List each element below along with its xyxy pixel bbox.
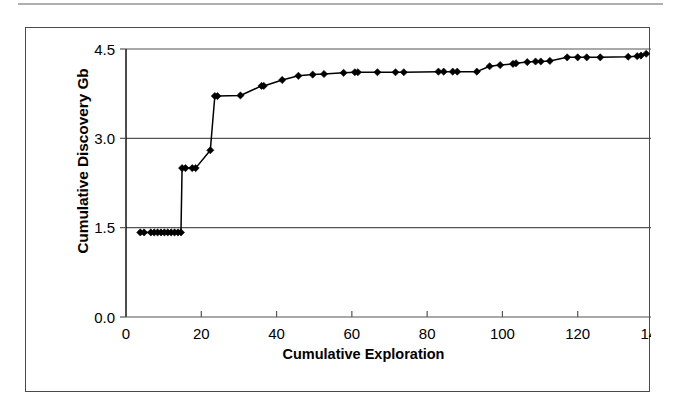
y-tick-label: 0.0 <box>94 309 115 326</box>
x-tick-label: 40 <box>268 325 285 342</box>
data-point-marker <box>295 72 302 79</box>
axis-group <box>126 49 651 317</box>
data-point-marker <box>237 92 244 99</box>
x-tick-label: 100 <box>490 325 515 342</box>
data-series-line <box>140 54 646 233</box>
data-point-marker <box>486 63 493 70</box>
y-tick-label: 4.5 <box>94 41 115 58</box>
top-separator-rule <box>18 3 663 5</box>
x-tick-label: 20 <box>193 325 210 342</box>
data-point-marker <box>309 71 316 78</box>
data-point-marker <box>454 68 461 75</box>
line-chart-plot: 0.01.53.04.5 020406080100120140 <box>66 31 651 351</box>
y-tick-label: 3.0 <box>94 130 115 147</box>
y-tick-label-group: 0.01.53.04.5 <box>94 41 115 326</box>
data-point-marker <box>374 69 381 76</box>
data-point-marker <box>546 57 553 64</box>
x-tick-label: 80 <box>419 325 436 342</box>
series-polyline <box>140 54 646 233</box>
data-point-marker <box>564 54 571 61</box>
x-tick-label: 120 <box>565 325 590 342</box>
data-point-marker <box>537 58 544 65</box>
y-tick-label: 1.5 <box>94 219 115 236</box>
data-point-marker <box>524 59 531 66</box>
data-point-marker <box>320 70 327 77</box>
figure-page: Cumulative Discovery Gb Cumulative Explo… <box>0 0 675 412</box>
x-tick-label: 0 <box>122 325 130 342</box>
data-point-marker <box>625 53 632 60</box>
chart-figure-frame: Cumulative Discovery Gb Cumulative Explo… <box>25 27 650 392</box>
data-point-marker <box>400 69 407 76</box>
data-point-marker <box>279 76 286 83</box>
data-point-marker <box>340 69 347 76</box>
data-point-marker <box>597 54 604 61</box>
x-tick-label: 60 <box>344 325 361 342</box>
data-point-marker <box>583 54 590 61</box>
tick-mark-group <box>120 49 651 317</box>
x-tick-label-group: 020406080100120140 <box>122 325 651 342</box>
data-point-marker <box>574 54 581 61</box>
data-series-markers <box>137 50 650 236</box>
data-point-marker <box>473 68 480 75</box>
x-tick-label: 140 <box>640 325 651 342</box>
data-point-marker <box>440 68 447 75</box>
data-point-marker <box>392 69 399 76</box>
data-point-marker <box>497 61 504 68</box>
gridline-group <box>126 49 651 228</box>
